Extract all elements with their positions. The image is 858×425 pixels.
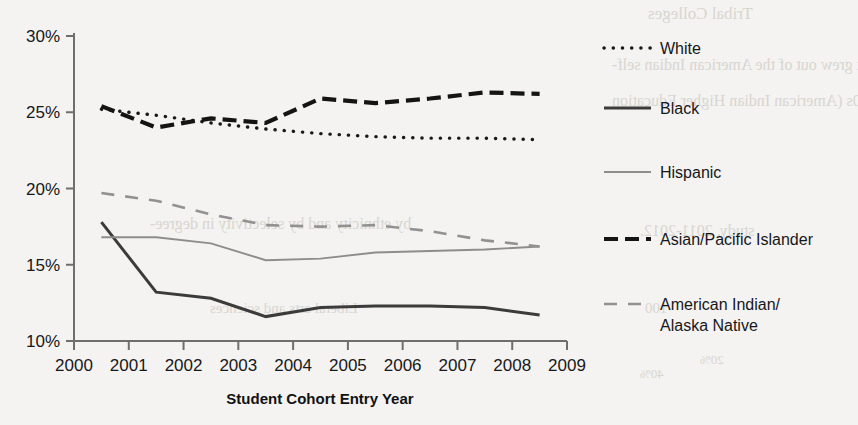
chart-legend: WhiteBlackHispanicAsian/Pacific Islander…: [604, 40, 814, 334]
legend-item: Asian/Pacific Islander: [604, 231, 814, 248]
legend-item: Black: [604, 100, 700, 117]
x-axis-tick-label: 2000: [55, 356, 93, 375]
x-axis-tick-label: 2003: [219, 356, 257, 375]
y-axis-tick-label: 25%: [26, 103, 60, 122]
series-line-asian-pacific-islander: [101, 92, 539, 127]
x-axis-title: Student Cohort Entry Year: [226, 390, 413, 407]
y-axis-tick-label: 30%: [26, 27, 60, 46]
legend-label: American Indian/: [660, 296, 781, 313]
legend-label: Alaska Native: [660, 317, 758, 334]
x-axis-tick-label: 2001: [110, 356, 148, 375]
data-series-layer: [101, 92, 539, 316]
series-line-black: [101, 222, 539, 317]
x-axis-tick-label: 2007: [439, 356, 477, 375]
axes: [66, 33, 567, 350]
line-chart: 10%15%20%25%30% 200020012002200320042005…: [0, 0, 858, 425]
series-line-hispanic: [101, 237, 539, 260]
x-axis-tick-label: 2002: [165, 356, 203, 375]
y-axis-ticks: [66, 36, 74, 341]
legend-item: White: [604, 40, 701, 57]
legend-label: Black: [660, 100, 700, 117]
y-axis-tick-label: 20%: [26, 180, 60, 199]
x-axis-tick-labels: 2000200120022003200420052006200720082009: [55, 356, 586, 375]
x-axis-tick-label: 2006: [384, 356, 422, 375]
x-axis-tick-label: 2009: [548, 356, 586, 375]
legend-label: White: [660, 40, 701, 57]
x-axis-ticks: [74, 341, 567, 350]
x-axis-tick-label: 2005: [329, 356, 367, 375]
y-axis-tick-label: 10%: [26, 332, 60, 351]
y-axis-tick-label: 15%: [26, 256, 60, 275]
legend-label: Hispanic: [660, 164, 721, 181]
x-axis-tick-label: 2008: [493, 356, 531, 375]
x-axis-tick-label: 2004: [274, 356, 312, 375]
chart-svg: 10%15%20%25%30% 200020012002200320042005…: [0, 0, 858, 425]
y-axis-tick-labels: 10%15%20%25%30%: [26, 27, 60, 351]
legend-label: Asian/Pacific Islander: [660, 231, 814, 248]
legend-item: American Indian/Alaska Native: [604, 296, 781, 334]
legend-item: Hispanic: [604, 164, 721, 181]
